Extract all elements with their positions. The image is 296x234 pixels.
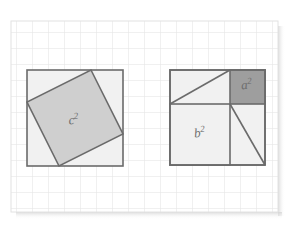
card-shadow-bottom: [16, 212, 282, 219]
figure-page: c2 b2 a2: [0, 0, 296, 234]
card-shadow-right: [278, 26, 285, 216]
hypotenuse-square-figure: c2: [27, 70, 123, 166]
pythagorean-figure-canvas: c2 b2 a2: [0, 0, 296, 234]
legs-squares-figure: b2 a2: [170, 70, 265, 165]
